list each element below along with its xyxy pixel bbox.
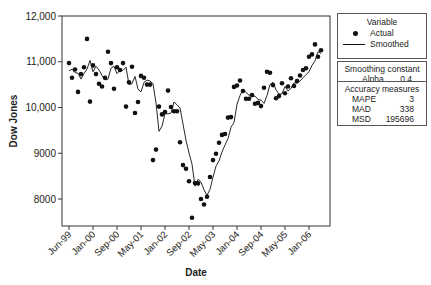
data-point [238, 78, 243, 83]
mad-row: MAD 338 [338, 104, 426, 114]
data-point [100, 84, 105, 89]
data-point [82, 65, 87, 70]
data-point [304, 66, 309, 71]
data-point [247, 97, 252, 102]
data-point [124, 104, 129, 109]
data-point [133, 111, 138, 116]
data-point [166, 88, 171, 93]
x-tick-label: May-03 [187, 229, 217, 259]
data-point [79, 72, 84, 77]
data-point [121, 61, 126, 66]
data-point [295, 79, 300, 84]
data-point [271, 83, 276, 88]
data-point [187, 179, 192, 184]
data-point [214, 151, 219, 156]
data-point [277, 94, 282, 99]
actual-series [67, 37, 324, 221]
data-point [223, 132, 228, 137]
x-tick-label: May-05 [259, 229, 289, 259]
data-point [235, 83, 240, 88]
data-point [205, 194, 210, 199]
data-point [310, 52, 315, 57]
data-point [118, 68, 123, 73]
data-point [148, 82, 153, 87]
data-point [259, 104, 264, 109]
data-point [154, 147, 159, 152]
data-point [142, 76, 147, 81]
data-point [70, 76, 75, 81]
data-point [157, 104, 162, 109]
data-point [229, 115, 234, 120]
y-axis: 8000900010,00011,00012,000 [25, 11, 62, 205]
x-tick-label: May-01 [115, 229, 145, 259]
data-point [208, 175, 213, 180]
data-point [178, 140, 183, 145]
x-tick-label: Jun-99 [45, 229, 73, 257]
plot-frame [62, 16, 330, 226]
line-marker-icon [343, 44, 365, 45]
y-tick-label: 8000 [34, 194, 57, 205]
data-point [283, 91, 288, 96]
data-point [67, 61, 72, 66]
data-point [217, 140, 222, 145]
data-point [211, 158, 216, 163]
data-point [91, 63, 96, 68]
y-tick-label: 10,000 [25, 102, 56, 113]
data-point [136, 100, 141, 105]
y-tick-label: 9000 [34, 148, 57, 159]
data-point [109, 61, 114, 66]
data-point [196, 181, 201, 186]
x-tick-label: Jan-06 [285, 229, 313, 257]
data-point [268, 70, 273, 75]
data-point [292, 84, 297, 89]
data-point [316, 54, 321, 59]
data-point [88, 99, 93, 104]
dot-marker-icon [353, 31, 358, 36]
data-point [106, 49, 111, 54]
data-point [289, 76, 294, 81]
y-axis-label: Dow Jones [8, 94, 19, 147]
data-point [76, 90, 81, 95]
y-tick-label: 12,000 [25, 11, 56, 22]
data-point [286, 84, 291, 89]
data-point [73, 67, 78, 72]
data-point [94, 72, 99, 77]
data-point [250, 93, 255, 98]
data-point [184, 167, 189, 172]
legend-entry-actual: Actual [338, 28, 426, 38]
y-tick-label: 11,000 [26, 56, 56, 67]
data-point [241, 89, 246, 94]
data-point [130, 65, 135, 70]
x-axis-label: Date [185, 267, 207, 278]
smoothed-line [69, 52, 321, 196]
data-point [85, 37, 90, 42]
data-point [262, 86, 267, 91]
legend-entry-smoothed: Smoothed [338, 39, 426, 49]
data-point [112, 86, 117, 91]
data-point [181, 163, 186, 168]
data-point [319, 48, 324, 53]
data-point [298, 73, 303, 78]
smoothed-series [69, 52, 321, 196]
x-axis: Jun-99Jan-00Sep-00May-01Jan-02Sep-02May-… [45, 226, 313, 259]
msd-row: MSD 195696 [338, 114, 426, 124]
data-point [202, 202, 207, 207]
data-point [190, 216, 195, 221]
data-point [313, 42, 318, 47]
data-point [103, 76, 108, 81]
data-point [175, 109, 180, 114]
legend-variable: Variable Actual Smoothed [337, 13, 427, 59]
legend-title: Variable [338, 17, 426, 27]
data-point [169, 105, 174, 110]
data-point [151, 158, 156, 163]
data-point [280, 81, 285, 86]
data-point [127, 80, 132, 85]
data-point [199, 197, 204, 202]
accuracy-measures-box: Accuracy measures MAPE 3 MAD 338 MSD 195… [337, 81, 427, 126]
mape-row: MAPE 3 [338, 94, 426, 104]
data-point [163, 110, 168, 115]
